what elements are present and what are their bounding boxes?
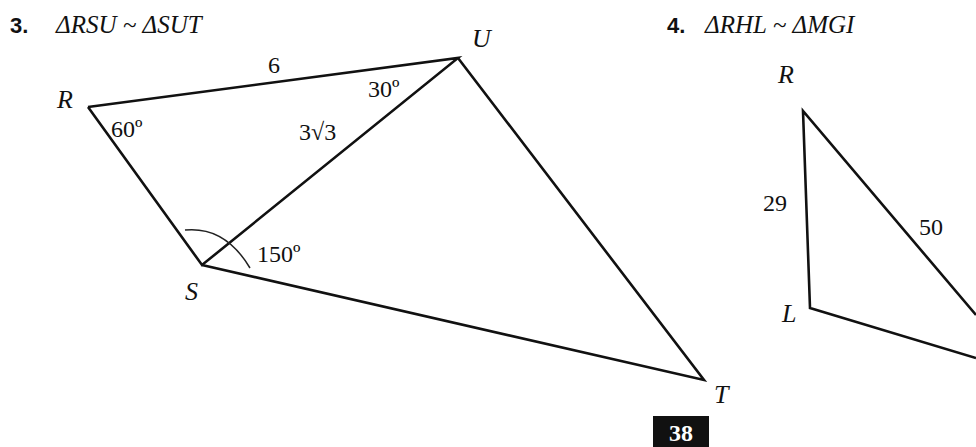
page-number-badge: 38	[653, 416, 709, 447]
triangle-sut	[202, 58, 704, 380]
angle-s-label: 150º	[257, 241, 301, 267]
angle-u-label: 30º	[368, 76, 400, 102]
vertex-t-label: T	[714, 380, 730, 409]
triangle-rhl	[803, 111, 976, 358]
worksheet-diagram: 3. ΔRSU ~ ΔSUT R U S T 6 3√3 60º 30º 150…	[0, 0, 976, 447]
problem-4-number: 4.	[667, 13, 685, 38]
problem-4-statement: ΔRHL ~ ΔMGI	[704, 11, 856, 38]
vertex-u-label: U	[472, 24, 493, 53]
side-su-label: 3√3	[299, 119, 336, 145]
vertex-r-label: R	[56, 85, 73, 114]
vertex-r-label: R	[777, 60, 794, 89]
problem-3-figure: R U S T 6 3√3 60º 30º 150º	[56, 24, 730, 409]
angle-r-label: 60º	[111, 116, 143, 142]
triangle-rsu	[88, 58, 458, 265]
vertex-l-label: L	[781, 299, 796, 328]
side-ru-label: 6	[268, 52, 280, 78]
problem-3-statement: ΔRSU ~ ΔSUT	[55, 11, 204, 38]
page-number: 38	[669, 420, 693, 446]
problem-3-number: 3.	[10, 13, 28, 38]
side-rh-label: 50	[919, 214, 943, 240]
side-rl-label: 29	[763, 190, 787, 216]
problem-4-figure: R L 29 50	[763, 60, 976, 358]
vertex-s-label: S	[185, 277, 198, 306]
